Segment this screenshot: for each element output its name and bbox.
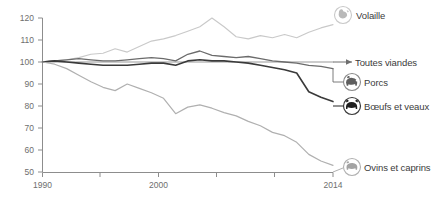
data-series-layer [43,18,334,165]
y-tick-label-100: 100 [20,57,34,67]
x-tick-label-2000: 2000 [149,180,168,190]
pig-icon [344,74,361,91]
x-tick-label-1990: 1990 [33,180,52,190]
y-tick-label-70: 70 [25,123,35,133]
y-tick-label-50: 50 [25,167,35,177]
legend-label-boeufs-et-veaux[interactable]: Bœufs et veaux [364,101,429,112]
y-axis-ticks [38,18,43,172]
y-tick-label-60: 60 [25,145,35,155]
legend-label-porcs[interactable]: Porcs [364,77,388,88]
legend-label-toutes-viandes[interactable]: Toutes viandes [355,57,417,68]
x-axis-ticks [43,173,334,178]
cow-icon [344,98,361,115]
series-line-b-ufs-et-veaux [43,60,334,102]
legend-label-ovins-et-caprins[interactable]: Ovins et caprins [364,162,431,173]
legend-icon-bubbles [335,7,361,176]
sheep-icon [344,159,361,176]
legend-label-volaille[interactable]: Volaille [356,10,385,21]
chicken-icon [335,7,352,24]
y-tick-label-110: 110 [20,35,34,45]
series-line-porcs [43,51,334,69]
y-tick-label-90: 90 [25,79,35,89]
y-tick-label-80: 80 [25,101,35,111]
y-tick-label-120: 120 [20,13,34,23]
x-tick-label-2014: 2014 [324,180,343,190]
series-line-ovins-et-caprins [43,62,334,165]
series-line-volaille [43,18,334,62]
